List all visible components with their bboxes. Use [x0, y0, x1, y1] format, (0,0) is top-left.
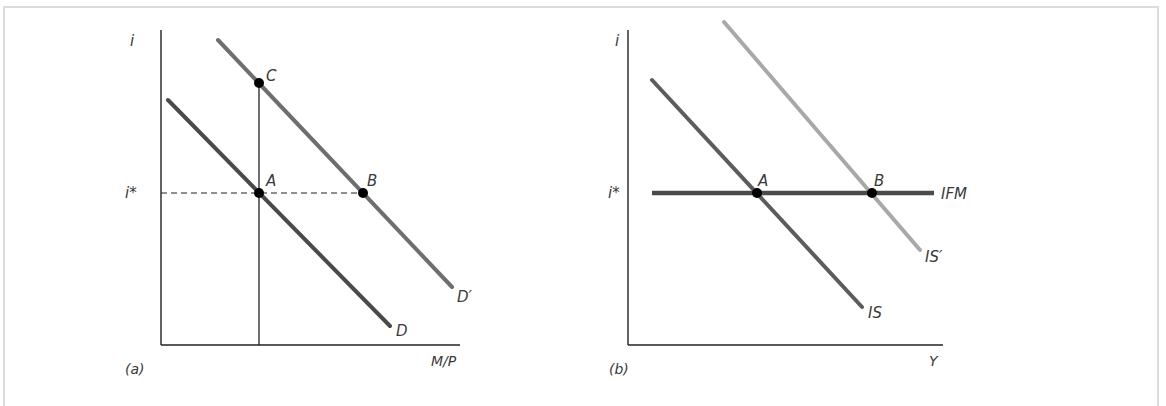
panel-b-point-b-label: B: [874, 172, 884, 190]
panel-b-x-axis-label: Y: [929, 353, 939, 369]
panel-a-curve-d-label: D: [396, 322, 408, 340]
panel-b-y-axis-label: i: [615, 32, 620, 50]
panel-a-point-c: [254, 78, 264, 88]
panel-a-point-c-label: C: [266, 67, 277, 85]
panel-b-curve-is-prime-label: IS′: [925, 248, 943, 266]
panel-a-tag: (a): [125, 361, 145, 377]
panel-b-curve-is-label: IS: [868, 304, 882, 322]
panel-a-curve-d-prime: [218, 40, 452, 287]
panel-b-tag: (b): [609, 361, 629, 377]
panel-b-point-a-label: A: [757, 172, 768, 190]
panel-b-i-star-label: i*: [608, 184, 620, 202]
panel-b: i i* A B IFM IS′ IS Y (b): [608, 22, 967, 377]
panel-b-curve-is-prime: [724, 22, 920, 250]
panel-a-point-a: [254, 188, 264, 198]
panel-a-point-a-label: A: [265, 172, 276, 190]
panel-a-point-b-label: B: [367, 172, 377, 190]
panel-a-curve-d: [168, 100, 390, 326]
panel-a-curve-d-prime-label: D′: [457, 288, 473, 306]
panel-a: i i* C A B D′ D M/P (a): [125, 30, 473, 377]
panel-a-x-axis-label: M/P: [431, 353, 457, 369]
panel-a-i-star-label: i*: [125, 184, 137, 202]
panel-b-curve-ifm-label: IFM: [941, 185, 967, 203]
panel-a-y-axis-label: i: [130, 32, 135, 50]
